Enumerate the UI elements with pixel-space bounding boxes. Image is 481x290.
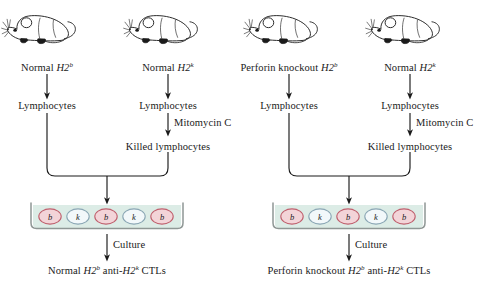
list-item: b [151,209,173,224]
list-item: k [365,209,387,224]
cell-label: k [374,212,378,222]
list-item: b [393,209,415,224]
list-item: b [95,209,117,224]
killed-lymphocytes-label-right: Killed lymphocytes [368,141,452,152]
stimulator-lymphocytes-label-left: Lymphocytes [139,100,197,111]
stimulator-lymphocytes-label-right: Lymphocytes [381,100,439,111]
cell-label: b [402,212,406,222]
outcome-label-left: Normal H2b anti-H2k CTLs [48,265,166,276]
cell-label: b [160,212,164,222]
killed-lymphocytes-label-left: Killed lymphocytes [126,141,210,152]
responder-strain-label-left: Normal H2b [21,62,73,73]
stimulator-strain-label-right: Normal H2k [384,62,436,73]
responder-lymphocytes-label-left: Lymphocytes [18,100,76,111]
cell-label: k [132,212,136,222]
responder-strain-label-right: Perforin knockout H2b [240,62,337,73]
cell-label: k [76,212,80,222]
cell-label: b [48,212,52,222]
list-item: k [123,209,145,224]
list-item: b [281,209,303,224]
mitomycin-label-left: Mitomycin C [174,117,231,128]
cell-label: b [104,212,108,222]
outcome-label-right: Perforin knockout H2b anti-H2k CTLs [268,265,431,276]
mitomycin-label-right: Mitomycin C [416,117,473,128]
list-item: k [67,209,89,224]
responder-lymphocytes-label-right: Lymphocytes [260,100,318,111]
cell-label: b [346,212,350,222]
list-item: k [309,209,331,224]
culture-label-right: Culture [355,239,387,250]
list-item: b [39,209,61,224]
stimulator-strain-label-left: Normal H2k [142,62,194,73]
culture-label-left: Culture [113,239,145,250]
cell-label: k [318,212,322,222]
cell-label: b [290,212,294,222]
list-item: b [337,209,359,224]
